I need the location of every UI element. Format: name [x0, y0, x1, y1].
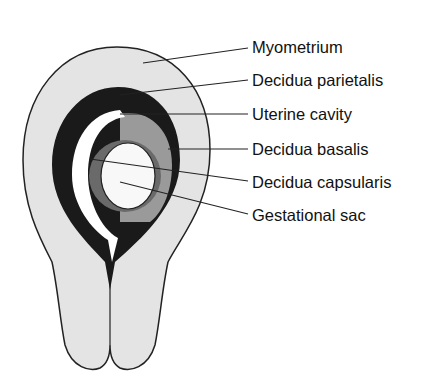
- gestational-sac-region: [101, 143, 155, 209]
- label-uterine-cavity: Uterine cavity: [252, 104, 352, 124]
- uterus-diagram: [0, 0, 444, 391]
- label-gestational-sac: Gestational sac: [252, 205, 366, 225]
- label-decidua-parietalis: Decidua parietalis: [252, 70, 383, 90]
- label-myometrium: Myometrium: [252, 37, 343, 57]
- label-decidua-basalis: Decidua basalis: [252, 139, 368, 159]
- label-decidua-capsularis: Decidua capsularis: [252, 172, 391, 192]
